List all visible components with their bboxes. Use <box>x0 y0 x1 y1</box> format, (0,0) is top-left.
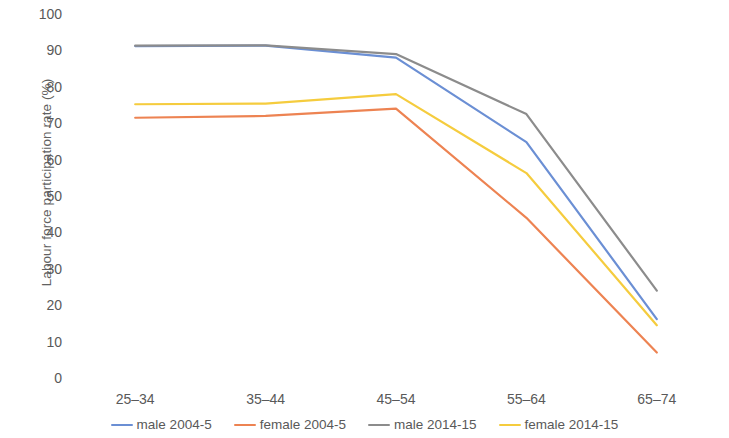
y-axis-tick-label: 100 <box>14 7 62 21</box>
x-axis-tick-label: 45–54 <box>336 392 456 406</box>
x-axis-tick-labels: 25–3435–4445–5455–6465–74 <box>70 392 722 414</box>
y-axis-tick-label: 20 <box>14 298 62 312</box>
y-axis-tick-label: 40 <box>14 225 62 239</box>
legend-item[interactable]: female 2014-15 <box>499 418 619 432</box>
y-axis-tick-label: 30 <box>14 262 62 276</box>
legend-color-swatch-icon <box>499 424 521 427</box>
legend-item-label: male 2014-15 <box>394 418 477 432</box>
legend-color-swatch-icon <box>234 424 256 427</box>
series-line <box>135 109 657 353</box>
y-axis-tick-labels: 1009080706050403020100 <box>0 0 62 438</box>
chart-legend: male 2004-5female 2004-5male 2014-15fema… <box>0 418 729 432</box>
y-axis-tick-label: 50 <box>14 189 62 203</box>
y-axis-tick-label: 0 <box>14 371 62 385</box>
series-line <box>135 94 657 325</box>
legend-color-swatch-icon <box>368 424 390 427</box>
series-line <box>135 46 657 319</box>
legend-item[interactable]: male 2014-15 <box>368 418 477 432</box>
y-axis-tick-label: 90 <box>14 43 62 57</box>
x-axis-tick-label: 25–34 <box>75 392 195 406</box>
x-axis-tick-label: 55–64 <box>466 392 586 406</box>
legend-item-label: male 2004-5 <box>137 418 212 432</box>
plot-svg <box>70 14 722 378</box>
y-axis-tick-label: 70 <box>14 116 62 130</box>
y-axis-tick-label: 10 <box>14 335 62 349</box>
series-line <box>135 45 657 290</box>
plot-area <box>70 14 722 378</box>
legend-item[interactable]: male 2004-5 <box>111 418 212 432</box>
x-axis-tick-label: 35–44 <box>206 392 326 406</box>
legend-item-label: female 2014-15 <box>525 418 619 432</box>
y-axis-tick-label: 80 <box>14 80 62 94</box>
legend-item[interactable]: female 2004-5 <box>234 418 346 432</box>
y-axis-tick-label: 60 <box>14 153 62 167</box>
line-chart: Labour force participation rate (%) 1009… <box>0 0 729 438</box>
legend-item-label: female 2004-5 <box>260 418 346 432</box>
legend-color-swatch-icon <box>111 424 133 427</box>
x-axis-tick-label: 65–74 <box>597 392 717 406</box>
